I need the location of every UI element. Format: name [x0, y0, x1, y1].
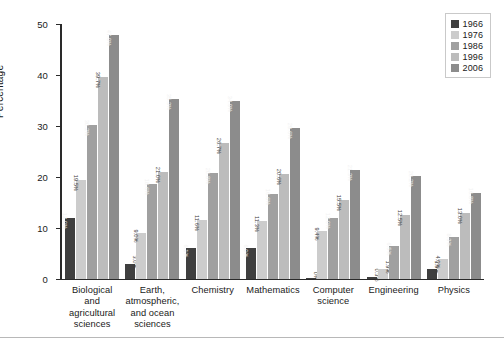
bar[interactable]: 21.0%: [158, 172, 168, 279]
bar-value-label: 12.0%: [323, 213, 333, 229]
bar-value-label: 6.1%: [181, 244, 191, 257]
bar-value-label: 21.0%: [153, 167, 163, 183]
bar-value-label: 15.5%: [334, 195, 344, 211]
bar-group: 6.0%11.3%16.6%20.6%29.6%: [243, 24, 303, 279]
bar[interactable]: 12.0%: [328, 218, 338, 279]
bar[interactable]: 11.6%: [197, 220, 207, 279]
y-axis-tick: [56, 279, 61, 280]
bar[interactable]: 18.6%: [147, 184, 157, 279]
bar[interactable]: 6.1%: [186, 248, 196, 279]
bar-value-label: 12.0%: [60, 213, 70, 229]
legend-item[interactable]: 1986: [451, 40, 483, 51]
footer-divider: [0, 337, 504, 338]
legend-label: 2006: [463, 63, 483, 73]
bar-value-label: 30.2%: [82, 120, 92, 136]
bar-groups: 12.0%19.5%30.2%39.7%47.9%3.0%9.0%18.6%21…: [62, 24, 484, 279]
bar[interactable]: 15.5%: [339, 200, 349, 279]
bar[interactable]: 12.5%: [400, 215, 410, 279]
bar-value-label: 4.0%: [433, 255, 443, 268]
legend-swatch: [451, 42, 459, 50]
y-axis-tick-label: 20: [14, 172, 48, 183]
bar[interactable]: 6.0%: [246, 248, 256, 279]
bar[interactable]: 20.8%: [208, 173, 218, 279]
bar[interactable]: 3.0%: [125, 264, 135, 279]
bar-value-label: 20.8%: [203, 168, 213, 184]
bar[interactable]: 34.9%: [230, 101, 240, 279]
bar-value-label: 11.6%: [192, 215, 202, 231]
legend-swatch: [451, 64, 459, 72]
bar-value-label: 9.4%: [312, 227, 322, 240]
bar[interactable]: 30.2%: [87, 125, 97, 279]
category-label: Biological andagriculturalsciences: [62, 285, 122, 331]
bar-group: 6.1%11.6%20.8%26.7%34.9%: [183, 24, 243, 279]
bar-value-label: 19.5%: [71, 174, 81, 190]
y-axis-tick: [56, 24, 61, 25]
bar-group: 0.3%1.9%6.5%12.5%20.2%: [363, 24, 423, 279]
legend-swatch: [451, 31, 459, 39]
bar-group: 3.0%9.0%18.6%21.0%35.3%: [122, 24, 182, 279]
bar[interactable]: 16.8%: [471, 193, 481, 279]
bar[interactable]: 8.3%: [449, 237, 459, 279]
y-axis-tick: [56, 177, 61, 178]
bar[interactable]: 39.7%: [98, 77, 108, 279]
bar-group: 12.0%19.5%30.2%39.7%47.9%: [62, 24, 122, 279]
bar-value-label: 35.3%: [164, 94, 174, 110]
bar[interactable]: 11.3%: [257, 221, 267, 279]
bar[interactable]: 9.0%: [136, 233, 146, 279]
y-axis-title: Percentage: [0, 65, 5, 118]
bar[interactable]: 20.6%: [279, 174, 289, 279]
y-axis-tick: [56, 126, 61, 127]
legend-label: 1986: [463, 41, 483, 51]
bar[interactable]: 9.4%: [317, 231, 327, 279]
bar-value-label: 34.9%: [225, 96, 235, 112]
y-axis-tick-label: 50: [14, 19, 48, 30]
category-label: Mathematics: [243, 285, 303, 331]
bar[interactable]: 13.0%: [460, 213, 470, 279]
legend-swatch: [451, 53, 459, 61]
legend-label: 1976: [463, 30, 483, 40]
bar[interactable]: 19.5%: [76, 180, 86, 279]
bar[interactable]: 0.3%: [367, 277, 377, 279]
bar[interactable]: 21.3%: [350, 170, 360, 279]
legend-swatch: [451, 20, 459, 28]
bar-value-label: 20.6%: [274, 169, 284, 185]
chart-legend: 19661976198619962006: [445, 13, 491, 78]
y-axis-tick: [56, 75, 61, 76]
bar-value-label: 29.6%: [285, 123, 295, 139]
bar[interactable]: 47.9%: [109, 35, 119, 279]
category-label: Earth,atmospheric,and oceansciences: [122, 285, 182, 331]
legend-item[interactable]: 1996: [451, 51, 483, 62]
legend-label: 1996: [463, 52, 483, 62]
bar-value-label: 39.7%: [93, 71, 103, 87]
bar-value-label: 6.0%: [241, 245, 251, 258]
bar-value-label: 9.0%: [131, 230, 141, 243]
bar[interactable]: 16.6%: [268, 194, 278, 279]
legend-item[interactable]: 2006: [451, 62, 483, 73]
bar[interactable]: 0%: [306, 278, 316, 279]
bar[interactable]: 12.0%: [65, 218, 75, 279]
bar-value-label: 12.5%: [395, 210, 405, 226]
x-axis-line: [60, 279, 484, 280]
bar[interactable]: 1.9%: [427, 269, 437, 279]
bar-value-label: 16.8%: [466, 188, 476, 204]
x-axis-category-labels: Biological andagriculturalsciencesEarth,…: [62, 285, 484, 331]
category-label: Computerscience: [303, 285, 363, 331]
bar-value-label: 6.5%: [384, 242, 394, 255]
y-axis-tick-label: 40: [14, 70, 48, 81]
bar[interactable]: 6.5%: [389, 246, 399, 279]
legend-item[interactable]: 1976: [451, 29, 483, 40]
category-label: Chemistry: [183, 285, 243, 331]
bar[interactable]: 35.3%: [169, 99, 179, 279]
bar[interactable]: 29.6%: [290, 128, 300, 279]
legend-item[interactable]: 1966: [451, 18, 483, 29]
y-axis-tick-label: 10: [14, 223, 48, 234]
bar[interactable]: 1.9%: [378, 269, 388, 279]
bar-value-label: 8.3%: [444, 233, 454, 246]
bar-value-label: 21.3%: [345, 165, 355, 181]
bar[interactable]: 20.2%: [411, 176, 421, 279]
bar-value-label: 16.6%: [263, 189, 273, 205]
category-label: Physics: [424, 285, 484, 331]
legend-label: 1966: [463, 19, 483, 29]
bar[interactable]: 4.0%: [438, 259, 448, 279]
bar[interactable]: 26.7%: [219, 143, 229, 279]
